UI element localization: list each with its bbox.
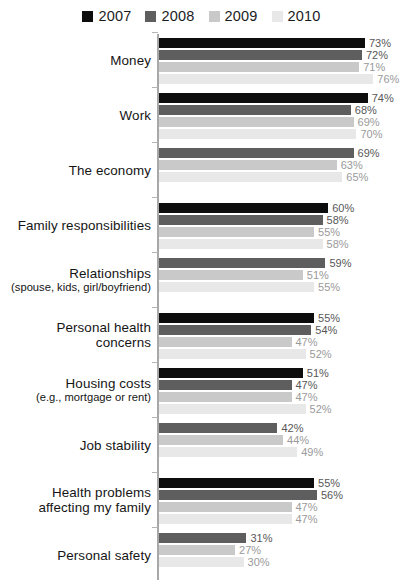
bar-2009 [159,502,292,512]
category-sublabel: (e.g., mortgage or rent) [1,391,151,404]
bar-row: 71% [159,62,399,72]
bar-row: 44% [159,435,323,445]
category-label-line: Personal health [1,320,151,335]
bar-value-label: 56% [321,490,343,500]
category-group: Money73%72%71%76% [0,32,403,87]
bar-2010 [159,172,342,182]
bar-value-label: 42% [281,423,303,433]
bar-row: 55% [159,227,354,237]
bar-2007 [159,478,314,488]
axis-tick [152,472,158,473]
bar-2010 [159,514,292,524]
bar-value-label: 69% [358,148,380,158]
category-label: Work [1,107,151,122]
bar-row: 74% [159,93,394,103]
category-group: Personal healthconcerns55%54%47%52% [0,307,403,362]
category-label-line: concerns [1,335,151,350]
bar-row: 70% [159,129,394,139]
bar-2010 [159,282,314,292]
category-label-line: The economy [1,162,151,177]
axis-tick [152,252,158,253]
bar-stack: 31%27%30% [159,533,272,569]
bar-row: 58% [159,239,354,249]
category-label-line: Family responsibilities [1,217,151,232]
category-groups: Money73%72%71%76%Work74%68%69%70%The eco… [0,32,403,582]
bar-value-label: 55% [318,478,340,488]
bar-2009 [159,270,303,280]
bar-2009 [159,392,292,402]
bar-row: 52% [159,349,340,359]
bar-value-label: 55% [318,282,340,292]
bar-stack: 42%44%49% [159,423,323,459]
bar-2007 [159,368,303,378]
legend-entry-2008: 2008 [145,8,194,24]
category-label: Relationships(spouse, kids, girl/boyfrie… [1,266,151,294]
chart-legend: 2007200820092010 [0,8,403,24]
category-label-line: Housing costs [1,376,151,391]
category-group: Work74%68%69%70% [0,87,403,142]
bar-row: 76% [159,74,399,84]
bar-2008 [159,325,311,335]
legend-entry-2009: 2009 [209,8,258,24]
bar-2008 [159,423,277,433]
bar-stack: 55%54%47%52% [159,313,340,361]
legend-swatch-icon [145,11,156,22]
category-label-line: Job stability [1,437,151,452]
category-group: Housing costs(e.g., mortgage or rent)51%… [0,362,403,417]
horizontal-bar-chart: 2007200820092010 Money73%72%71%76%Work74… [0,0,403,584]
axis-tick [152,87,158,88]
bar-value-label: 60% [332,203,354,213]
category-label-line: Work [1,107,151,122]
axis-tick [152,362,158,363]
bar-value-label: 70% [360,129,382,139]
category-label: Personal safety [1,547,151,562]
bar-row: 55% [159,313,340,323]
bar-row: 69% [159,148,380,158]
bar-2009 [159,337,292,347]
category-label: The economy [1,162,151,177]
category-label: Health problemsaffecting my family [1,485,151,515]
bar-2010 [159,404,306,414]
bar-2009 [159,545,235,555]
bar-value-label: 47% [296,337,318,347]
bar-value-label: 69% [358,117,380,127]
bar-2010 [159,349,306,359]
bar-value-label: 58% [327,215,349,225]
bar-value-label: 63% [341,160,363,170]
legend-label: 2008 [161,8,194,24]
bar-row: 68% [159,105,394,115]
legend-swatch-icon [272,11,283,22]
bar-row: 55% [159,478,343,488]
category-group: Job stability42%44%49% [0,417,403,472]
bar-stack: 51%47%47%52% [159,368,332,416]
bar-value-label: 72% [366,50,388,60]
category-sublabel: (spouse, kids, girl/boyfriend) [1,281,151,294]
bar-row: 51% [159,270,351,280]
category-group: Family responsibilities60%58%55%58% [0,197,403,252]
bar-2010 [159,74,373,84]
bar-value-label: 51% [307,368,329,378]
bar-value-label: 44% [287,435,309,445]
bar-value-label: 31% [250,533,272,543]
bar-row: 27% [159,545,272,555]
bar-value-label: 30% [248,557,270,567]
bar-2009 [159,117,354,127]
bar-value-label: 55% [318,227,340,237]
axis-tick [152,527,158,528]
bar-row: 47% [159,502,343,512]
bar-row: 69% [159,117,394,127]
bar-2010 [159,239,323,249]
bar-row: 65% [159,172,380,182]
category-label-line: Personal safety [1,547,151,562]
legend-label: 2009 [225,8,258,24]
bar-2008 [159,215,323,225]
axis-tick [152,142,158,143]
bar-row: 72% [159,50,399,60]
legend-swatch-icon [82,11,93,22]
bar-row: 58% [159,215,354,225]
bar-stack: 55%56%47%47% [159,478,343,526]
legend-swatch-icon [209,11,220,22]
bar-row: 31% [159,533,272,543]
bar-row: 55% [159,282,351,292]
bar-row: 47% [159,392,332,402]
